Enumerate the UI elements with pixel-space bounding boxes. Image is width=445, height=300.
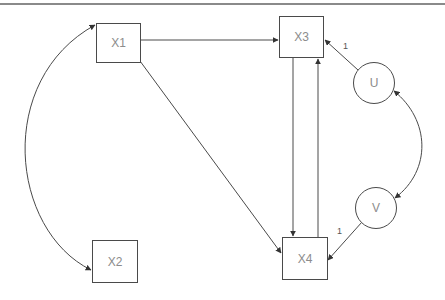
node-x1[interactable]: X1 <box>96 23 141 63</box>
diagram-edges <box>0 0 445 300</box>
node-x3[interactable]: X3 <box>279 16 324 58</box>
edge-label-v-x4: 1 <box>337 226 342 236</box>
node-x4[interactable]: X4 <box>282 237 328 280</box>
node-u[interactable]: U <box>353 62 395 104</box>
node-x2-label: X2 <box>108 255 123 269</box>
node-x2[interactable]: X2 <box>92 240 138 283</box>
node-x4-label: X4 <box>298 252 313 266</box>
edge-u-v-covariance <box>394 91 422 198</box>
node-x3-label: X3 <box>294 30 309 44</box>
node-x1-label: X1 <box>111 36 126 50</box>
edge-x1-x2-covariance <box>25 25 95 270</box>
node-v[interactable]: V <box>355 187 397 229</box>
edge-label-u-x3: 1 <box>343 41 348 51</box>
node-u-label: U <box>370 76 379 90</box>
node-v-label: V <box>372 201 380 215</box>
edge-u-x3 <box>325 40 358 70</box>
edge-x1-x4 <box>140 61 281 253</box>
edge-v-x4 <box>328 222 362 260</box>
